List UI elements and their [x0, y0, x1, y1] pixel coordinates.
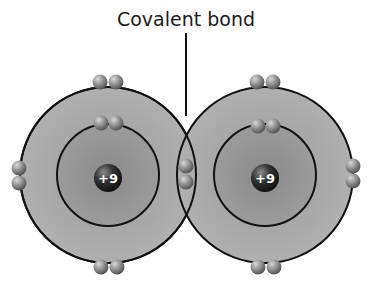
- electron: [251, 260, 266, 275]
- electron: [12, 161, 27, 176]
- electron: [251, 119, 266, 134]
- electron: [250, 75, 265, 90]
- left-nucleus: +9: [94, 164, 122, 192]
- electron: [266, 119, 281, 134]
- electron: [94, 260, 109, 275]
- electron: [110, 260, 125, 275]
- covalent-bond-diagram: Covalent bond +9 +9: [0, 0, 372, 301]
- covalent-bond-label: Covalent bond: [117, 8, 255, 30]
- electron: [266, 75, 281, 90]
- left-nucleus-charge: +9: [98, 171, 118, 186]
- electron: [109, 116, 124, 131]
- right-nucleus: +9: [251, 164, 279, 192]
- electron: [267, 260, 282, 275]
- electron: [109, 75, 124, 90]
- electron: [346, 159, 361, 174]
- shared-electron: [179, 159, 194, 174]
- electron: [12, 176, 27, 191]
- right-nucleus-charge: +9: [255, 171, 275, 186]
- electron: [94, 116, 109, 131]
- shared-electron: [179, 175, 194, 190]
- electron: [93, 75, 108, 90]
- electron: [346, 174, 361, 189]
